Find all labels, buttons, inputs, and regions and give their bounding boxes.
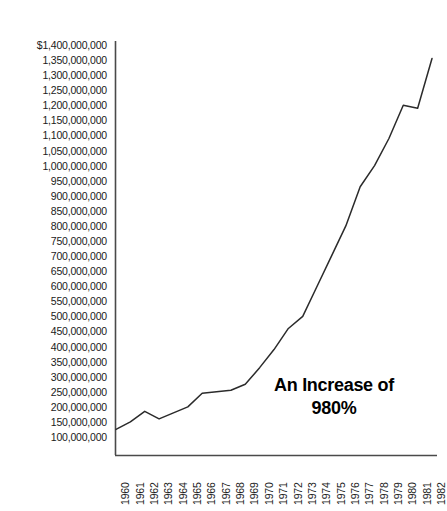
annotation-line-2: 980%: [236, 397, 432, 420]
x-tick-label: 1980: [407, 482, 418, 505]
x-tick-label: 1965: [192, 482, 203, 505]
x-tick-label: 1963: [163, 482, 174, 505]
x-tick-label: 1960: [120, 482, 131, 505]
x-tick-label: 1969: [249, 482, 260, 505]
x-tick-label: 1975: [336, 482, 347, 505]
x-tick-label: 1970: [264, 482, 275, 505]
x-tick-label: 1962: [149, 482, 160, 505]
x-tick-label: 1982: [436, 482, 447, 505]
x-tick-label: 1966: [206, 482, 217, 505]
x-tick-label: 1973: [307, 482, 318, 505]
annotation-line-1: An Increase of: [236, 374, 432, 397]
x-tick-label: 1974: [321, 482, 332, 505]
x-tick-label: 1967: [221, 482, 232, 505]
x-tick-label: 1961: [135, 482, 146, 505]
x-tick-label: 1978: [379, 482, 390, 505]
x-tick-label: 1977: [364, 482, 375, 505]
x-tick-label: 1971: [278, 482, 289, 505]
x-tick-label: 1981: [422, 482, 433, 505]
x-tick-label: 1972: [293, 482, 304, 505]
x-tick-label: 1968: [235, 482, 246, 505]
x-tick-label: 1976: [350, 482, 361, 505]
x-tick-label: 1979: [393, 482, 404, 505]
x-tick-label: 1964: [178, 482, 189, 505]
increase-annotation: An Increase of 980%: [236, 374, 432, 420]
